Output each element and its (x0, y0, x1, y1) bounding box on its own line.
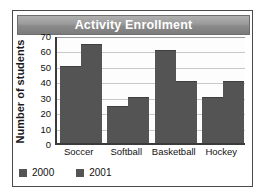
legend-swatch-icon (76, 169, 84, 177)
y-tick-label: 60 (40, 48, 51, 58)
bar (176, 81, 197, 143)
bar-group (152, 37, 200, 143)
y-tick-label: 40 (40, 79, 51, 89)
chart-title-bar: Activity Enrollment (17, 15, 250, 35)
x-tick-label: Soccer (64, 147, 94, 157)
bar-group (57, 37, 105, 143)
y-axis-title-label: Number of students (16, 39, 27, 143)
bar (60, 66, 81, 143)
x-axis-tick-labels: SoccerSoftballBasketballHockey (55, 147, 245, 161)
plot-area (55, 37, 245, 145)
legend-item: 2001 (76, 168, 111, 178)
y-tick-label: 0 (46, 140, 51, 150)
plot-region: Number of students 010203040506070 Socce… (17, 37, 250, 159)
y-axis-tick-labels: 010203040506070 (31, 37, 53, 145)
legend-label: 2001 (89, 168, 111, 178)
bar (155, 50, 176, 143)
chart-legend: 20002001 (19, 166, 134, 180)
bars-layer (57, 37, 245, 143)
x-tick-label: Softball (110, 147, 142, 157)
y-tick-label: 70 (40, 32, 51, 42)
legend-label: 2000 (32, 168, 54, 178)
bar (107, 106, 128, 143)
bar-group (105, 37, 153, 143)
chart-title: Activity Enrollment (75, 19, 193, 32)
chart-card: Activity Enrollment Number of students 0… (12, 10, 253, 187)
x-tick-label: Basketball (152, 147, 196, 157)
legend-item: 2000 (19, 168, 54, 178)
bar (81, 44, 102, 143)
y-axis-title: Number of students (13, 37, 29, 145)
y-tick-label: 10 (40, 125, 51, 135)
legend-swatch-icon (19, 169, 27, 177)
x-tick-label: Hockey (205, 147, 237, 157)
y-tick-label: 30 (40, 94, 51, 104)
bar (202, 97, 223, 143)
bar (128, 97, 149, 143)
bar-group (200, 37, 248, 143)
y-tick-label: 50 (40, 63, 51, 73)
y-tick-label: 20 (40, 109, 51, 119)
bar (223, 81, 244, 143)
